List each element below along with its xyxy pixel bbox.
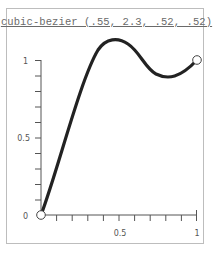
y-label-0: 0 bbox=[23, 212, 28, 221]
bezier-plot: 1 0.5 0 0.5 1 bbox=[0, 0, 213, 253]
y-ticks bbox=[35, 61, 41, 201]
end-point-handle[interactable] bbox=[193, 56, 202, 65]
bezier-curve bbox=[41, 40, 197, 215]
x-label-1: 1 bbox=[194, 229, 199, 238]
start-point-handle[interactable] bbox=[37, 211, 46, 220]
x-label-half: 0.5 bbox=[114, 229, 127, 238]
y-label-half: 0.5 bbox=[17, 134, 30, 143]
y-label-1: 1 bbox=[23, 57, 28, 66]
